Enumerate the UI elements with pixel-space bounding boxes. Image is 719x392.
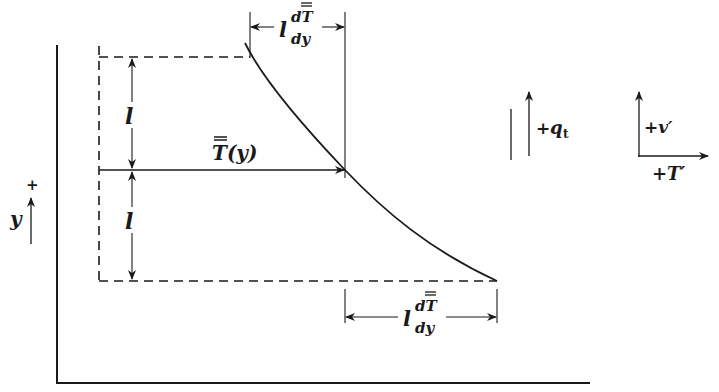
svg-text:l: l: [279, 17, 287, 42]
v-prime-label: +v′: [644, 117, 673, 137]
svg-text:+: +: [536, 118, 550, 138]
temperature-profile-curve: [245, 43, 497, 281]
svg-text:dT: dT: [291, 8, 314, 26]
svg-text:l: l: [403, 306, 411, 331]
svg-text:T(y): T(y): [212, 141, 257, 165]
svg-text:dT: dT: [415, 297, 438, 315]
top-dimension-label: l dT dy: [279, 3, 314, 48]
t-prime-label: +T′: [652, 163, 685, 184]
svg-text:dy: dy: [291, 30, 311, 48]
svg-text:t: t: [563, 127, 569, 141]
y-axis-label: y: [9, 207, 23, 231]
svg-text:dy: dy: [415, 319, 435, 337]
mixing-length-diagram: + y l l T(y) l dT dy l dT dy: [0, 0, 719, 392]
heat-flux-label: + q t: [536, 117, 569, 141]
bottom-dimension-label: l dT dy: [403, 292, 438, 337]
mean-profile-label: T(y): [212, 137, 257, 165]
svg-text:q: q: [550, 117, 563, 138]
y-plus-sign: +: [26, 176, 39, 194]
upper-mixing-length-label: l: [125, 103, 133, 129]
lower-mixing-length-label: l: [125, 208, 133, 234]
